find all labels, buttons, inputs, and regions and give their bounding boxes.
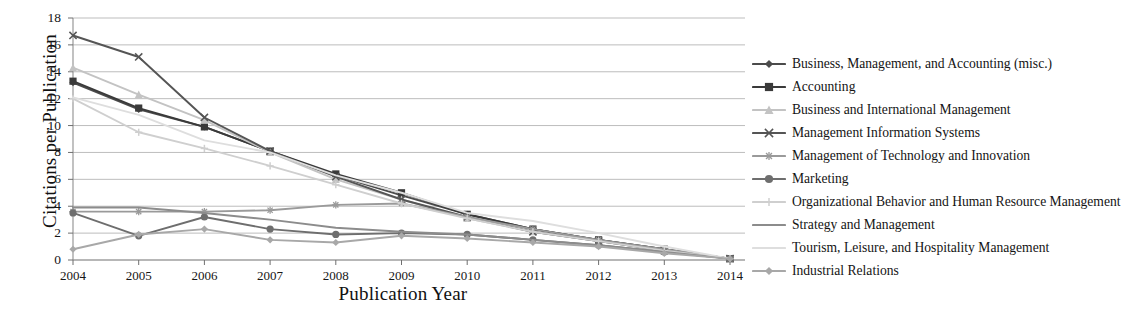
legend-marker-diamond-icon bbox=[752, 262, 786, 280]
data-point-marker-triangle bbox=[69, 64, 77, 72]
legend-label: Industrial Relations bbox=[792, 264, 899, 278]
data-point-marker-asterisk bbox=[267, 207, 274, 214]
axis-lines bbox=[73, 18, 745, 260]
series-lines bbox=[69, 32, 734, 262]
data-point-marker-circle bbox=[201, 213, 208, 220]
gridlines bbox=[73, 18, 745, 260]
x-tick-label: 2007 bbox=[240, 269, 300, 282]
y-tick-label: 16 bbox=[37, 38, 61, 52]
data-point-marker-asterisk bbox=[332, 201, 339, 208]
data-point-marker-diamond bbox=[267, 236, 274, 243]
y-tick-label: 6 bbox=[37, 172, 61, 186]
y-tick-label: 4 bbox=[37, 199, 61, 213]
data-point-marker-circle bbox=[267, 225, 274, 232]
y-tick-label: 12 bbox=[37, 92, 61, 106]
legend-item[interactable]: Industrial Relations bbox=[752, 259, 1118, 282]
x-tick-label: 2005 bbox=[109, 269, 169, 282]
legend-item[interactable]: Marketing bbox=[752, 167, 1118, 190]
x-tick-label: 2009 bbox=[372, 269, 432, 282]
legend-label: Management Information Systems bbox=[792, 126, 980, 140]
x-tick-label: 2006 bbox=[174, 269, 234, 282]
legend-item[interactable]: Management Information Systems bbox=[752, 121, 1118, 144]
x-tick-label: 2013 bbox=[634, 269, 694, 282]
x-tick-label: 2008 bbox=[306, 269, 366, 282]
legend-marker-diamond-icon bbox=[752, 55, 786, 73]
legend-label: Marketing bbox=[792, 172, 849, 186]
legend-marker-asterisk-icon bbox=[752, 147, 786, 165]
data-point-marker-plus bbox=[765, 197, 773, 205]
data-point-marker-circle bbox=[332, 231, 339, 238]
y-tick-label: 2 bbox=[37, 226, 61, 240]
legend-marker-circle-icon bbox=[752, 170, 786, 188]
plot-area: 024681012141618 200420052006200720082009… bbox=[0, 0, 745, 280]
y-tick-label: 8 bbox=[37, 145, 61, 159]
legend-marker-square-icon bbox=[752, 78, 786, 96]
data-point-marker-square bbox=[69, 78, 76, 85]
data-point-marker-square bbox=[765, 82, 773, 90]
legend-item[interactable]: Strategy and Management bbox=[752, 213, 1118, 236]
y-tick-label: 18 bbox=[37, 11, 61, 25]
x-tick-label: 2004 bbox=[43, 269, 103, 282]
data-point-marker-diamond bbox=[69, 246, 76, 253]
legend-label: Business, Management, and Accounting (mi… bbox=[792, 57, 1052, 71]
data-point-marker-asterisk bbox=[765, 151, 773, 159]
data-point-marker-square bbox=[201, 123, 208, 130]
legend-item[interactable]: Business, Management, and Accounting (mi… bbox=[752, 52, 1118, 75]
legend-label: Management of Technology and Innovation bbox=[792, 149, 1030, 163]
legend-label: Strategy and Management bbox=[792, 218, 935, 232]
x-tick-label: 2014 bbox=[700, 269, 760, 282]
legend-label: Accounting bbox=[792, 80, 855, 94]
legend-item[interactable]: Management of Technology and Innovation bbox=[752, 144, 1118, 167]
legend-item[interactable]: Business and International Management bbox=[752, 98, 1118, 121]
legend-marker-triangle-icon bbox=[752, 101, 786, 119]
data-point-marker-diamond bbox=[332, 239, 339, 246]
y-tick-label: 14 bbox=[37, 65, 61, 79]
data-point-marker-circle bbox=[69, 209, 76, 216]
data-point-marker-diamond bbox=[765, 266, 773, 274]
x-tick-label: 2010 bbox=[437, 269, 497, 282]
legend-label: Organizational Behavior and Human Resour… bbox=[792, 195, 1121, 209]
x-tick-label: 2012 bbox=[569, 269, 629, 282]
y-tick-label: 0 bbox=[37, 253, 61, 267]
legend-item[interactable]: Organizational Behavior and Human Resour… bbox=[752, 190, 1118, 213]
chart-legend: Business, Management, and Accounting (mi… bbox=[752, 52, 1118, 282]
data-point-marker-plus bbox=[267, 162, 274, 169]
legend-item[interactable]: Accounting bbox=[752, 75, 1118, 98]
data-point-marker-plus bbox=[201, 145, 208, 152]
data-point-marker-plus bbox=[135, 129, 142, 136]
legend-label: Tourism, Leisure, and Hospitality Manage… bbox=[792, 241, 1049, 255]
y-tick-label: 10 bbox=[37, 119, 61, 133]
data-point-marker-asterisk bbox=[135, 208, 142, 215]
data-point-marker-square bbox=[135, 104, 142, 111]
x-axis-title: Publication Year bbox=[73, 283, 733, 305]
legend-item[interactable]: Tourism, Leisure, and Hospitality Manage… bbox=[752, 236, 1118, 259]
legend-label: Business and International Management bbox=[792, 103, 1011, 117]
data-point-marker-diamond bbox=[765, 59, 773, 67]
legend-marker-line-icon bbox=[752, 239, 786, 257]
x-tick-label: 2011 bbox=[503, 269, 563, 282]
legend-marker-line-icon bbox=[752, 216, 786, 234]
plot-canvas bbox=[0, 0, 745, 280]
data-point-marker-circle bbox=[765, 174, 773, 182]
legend-marker-plus-icon bbox=[752, 193, 786, 211]
legend-marker-x-icon bbox=[752, 124, 786, 142]
data-point-marker-diamond bbox=[201, 225, 208, 232]
